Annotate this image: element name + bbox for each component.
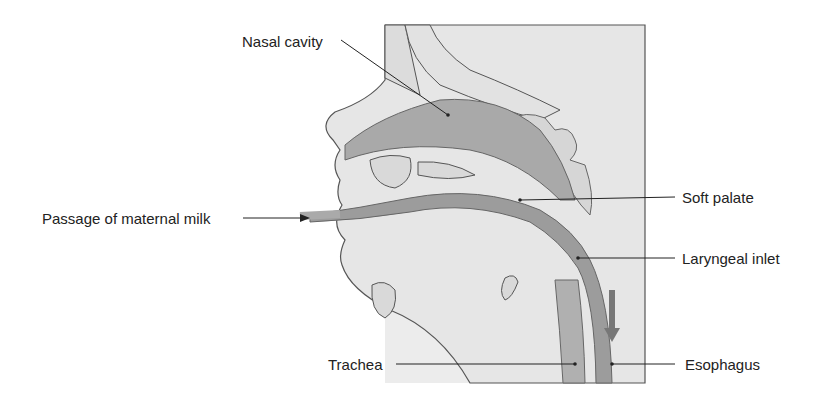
label-laryngeal-inlet: Laryngeal inlet (682, 250, 780, 267)
label-esophagus: Esophagus (685, 356, 760, 373)
label-nasal-cavity: Nasal cavity (242, 33, 323, 50)
label-soft-palate: Soft palate (682, 189, 754, 206)
label-trachea: Trachea (328, 356, 382, 373)
milk-inflow (300, 214, 340, 216)
label-passage-of-maternal-milk: Passage of maternal milk (42, 210, 210, 227)
